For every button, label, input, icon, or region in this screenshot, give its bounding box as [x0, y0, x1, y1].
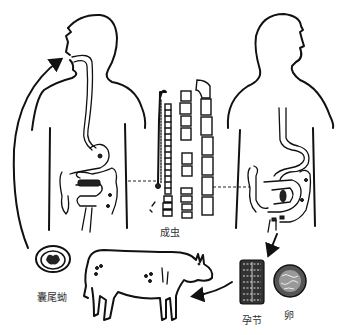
gravid-proglottid-image [240, 260, 264, 304]
excretion-arrow [269, 234, 277, 254]
ingestion-arrow [14, 60, 60, 248]
label-egg: 卵 [284, 307, 294, 322]
cow-image [84, 250, 212, 320]
cysticercus-image [36, 246, 70, 272]
label-cysticercus: 囊尾蚴 [37, 289, 67, 304]
ingestion-by-cow-arrow [194, 282, 232, 296]
egg-image [274, 265, 306, 297]
adult-worm [150, 80, 213, 218]
label-gravid-proglottid: 孕节 [242, 312, 262, 327]
human-figure-left [32, 15, 145, 232]
human-figure-right [228, 14, 333, 232]
label-adult-worm: 成虫 [160, 224, 180, 239]
life-cycle-diagram [0, 0, 342, 335]
